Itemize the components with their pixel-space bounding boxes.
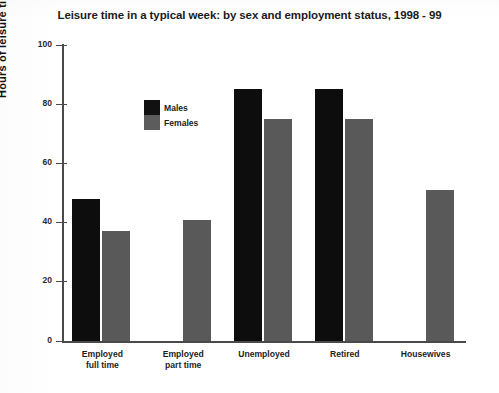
x-axis-label-2: Unemployed xyxy=(224,349,305,360)
x-axis-label-1: Employed part time xyxy=(143,349,224,371)
y-tick-label: 80 xyxy=(43,98,56,108)
y-tick-label: 40 xyxy=(43,216,56,226)
legend-label: Males xyxy=(164,103,188,113)
chart-title: Leisure time in a typical week: by sex a… xyxy=(0,9,499,21)
bar-females-4 xyxy=(426,190,454,341)
bar-males-0 xyxy=(72,199,100,341)
legend-item-males: Males xyxy=(144,100,188,115)
x-axis-label-3: Retired xyxy=(304,349,385,360)
legend-swatch-icon xyxy=(144,100,160,115)
legend-label: Females xyxy=(164,118,198,128)
bar-females-1 xyxy=(183,220,211,341)
y-tick-label: 100 xyxy=(38,39,56,49)
x-axis-label-0: Employed full time xyxy=(62,349,143,371)
y-tick-label: 0 xyxy=(47,335,56,345)
legend-item-females: Females xyxy=(144,115,198,130)
x-axis-line xyxy=(62,341,466,343)
bar-females-3 xyxy=(345,119,373,341)
bar-chart: Leisure time in a typical week: by sex a… xyxy=(0,0,499,393)
x-axis-label-4: Housewives xyxy=(385,349,466,360)
chart-legend: MalesFemales xyxy=(144,100,218,130)
bar-females-0 xyxy=(102,231,130,341)
plot-area: MalesFemales xyxy=(62,45,466,341)
bar-males-3 xyxy=(315,89,343,341)
y-tick-label: 60 xyxy=(43,157,56,167)
bar-females-2 xyxy=(264,119,292,341)
legend-swatch-icon xyxy=(144,115,160,130)
y-axis-title: Hours of leisure time xyxy=(0,0,8,98)
bar-males-2 xyxy=(234,89,262,341)
y-tick-label: 20 xyxy=(43,275,56,285)
